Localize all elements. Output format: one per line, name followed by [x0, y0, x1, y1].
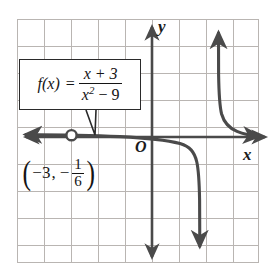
curve-right-branch	[219, 33, 260, 136]
denominator-rest: − 9	[94, 87, 119, 104]
open-circle-hole-marker	[66, 130, 76, 140]
coordinate-y-fraction: 1 6	[72, 157, 84, 190]
y-axis-label: y	[158, 17, 166, 37]
function-callout-box: f(x) = x + 3 x2 − 9	[19, 59, 141, 110]
open-paren: (	[22, 161, 30, 185]
origin-label: O	[135, 138, 147, 156]
curve-left-branch	[26, 135, 200, 246]
function-name: f(x)	[38, 75, 60, 93]
fraction-denominator: x2 − 9	[79, 83, 123, 104]
formula-fraction: x + 3 x2 − 9	[79, 65, 123, 104]
function-formula: f(x) = x + 3 x2 − 9	[38, 65, 123, 104]
callout-leader-line	[86, 110, 96, 135]
coordinate-comma: ,	[51, 163, 55, 183]
hole-coordinate-label: ( −3 , − 1 6 )	[21, 157, 96, 190]
equals-sign: =	[66, 75, 75, 93]
denominator-base: x	[82, 87, 89, 104]
x-axis-label: x	[243, 145, 252, 165]
coordinate-y-minus: −	[60, 163, 70, 183]
fraction-numerator: x + 3	[81, 65, 121, 83]
close-paren: )	[86, 161, 94, 185]
coordinate-fraction-denominator: 6	[72, 173, 84, 190]
coordinate-fraction-numerator: 1	[72, 157, 84, 173]
rational-function-figure: y x O f(x) = x + 3 x2 − 9 ( −3 , − 1 6 )	[0, 0, 274, 277]
coordinate-x-value: −3	[32, 163, 50, 183]
